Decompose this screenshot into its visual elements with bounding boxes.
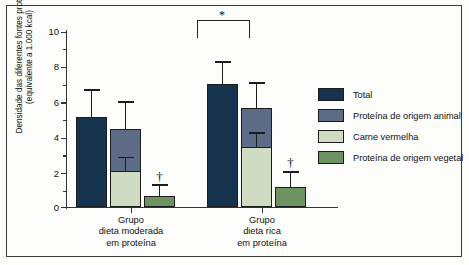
legend-swatch-red-meat [318, 130, 344, 143]
x-label-moderate-line1: Grupo [66, 215, 196, 226]
errorbar-animal-high-line [256, 83, 258, 108]
legend-swatch-vegetal-protein [318, 151, 344, 164]
legend-item-red-meat[interactable]: Carne vermelha [318, 126, 463, 147]
y-tick-label-0: 0 [33, 202, 59, 213]
errorbar-red-meat-high-cap [249, 132, 265, 134]
errorbar-total-moderate-line [91, 90, 93, 117]
y-tick-label-6: 6 [33, 97, 59, 108]
x-label-high-line1: Grupo [197, 215, 327, 226]
y-tick-label-10: 10 [33, 26, 59, 37]
x-label-high-line2: dieta rica [197, 226, 327, 237]
legend-label-vegetal-protein: Proteína de origem vegetal [353, 153, 463, 163]
x-category-label-high: Grupo dieta rica em proteína [197, 215, 327, 249]
significance-star: * [219, 9, 225, 21]
errorbar-vegetal-high-line [290, 172, 292, 187]
errorbar-total-moderate-cap [84, 89, 100, 91]
bar-total-moderate[interactable] [76, 117, 107, 207]
y-axis-label-line1: Densidade das diferentes fontes proteica… [15, 0, 24, 133]
errorbar-vegetal-moderate-line [159, 185, 161, 196]
errorbar-total-high-cap [215, 61, 231, 63]
legend-swatch-animal-protein [318, 109, 344, 122]
x-label-moderate-line2: dieta moderada [66, 226, 196, 237]
x-label-moderate-line3: em proteína [66, 238, 196, 249]
x-tick-moderate [131, 208, 132, 213]
bar-group-high-protein: † [207, 30, 317, 207]
legend-label-animal-protein: Proteína de origem animal [353, 111, 461, 121]
x-axis-line [66, 207, 338, 208]
errorbar-animal-moderate-line [125, 102, 127, 130]
dagger-mark-vegetal-moderate: † [153, 170, 167, 183]
dagger-mark-vegetal-high: † [284, 156, 298, 169]
errorbar-red-meat-moderate-cap [118, 157, 134, 159]
errorbar-animal-moderate-cap [118, 101, 134, 103]
x-label-high-line3: em proteína [197, 238, 327, 249]
legend: Total Proteína de origem animal Carne ve… [318, 84, 463, 168]
errorbar-total-high-line [222, 62, 224, 84]
x-category-label-moderate: Grupo dieta moderada em proteína [66, 215, 196, 249]
plot-area: † † [66, 30, 338, 207]
segment-red-meat-moderate [111, 171, 140, 207]
errorbar-animal-high-cap [249, 82, 265, 84]
errorbar-vegetal-moderate-cap [152, 184, 168, 186]
y-tick-label-4: 4 [33, 132, 59, 143]
errorbar-vegetal-high-cap [283, 171, 299, 173]
y-tick-label-8: 8 [33, 61, 59, 72]
legend-swatch-total [318, 88, 344, 101]
bar-vegetal-protein-high[interactable] [275, 187, 306, 208]
segment-red-meat-high [242, 147, 271, 207]
bar-group-moderate-protein: † [76, 30, 186, 207]
legend-item-animal-protein[interactable]: Proteína de origem animal [318, 105, 463, 126]
bar-vegetal-protein-moderate[interactable] [144, 196, 175, 207]
legend-item-total[interactable]: Total [318, 84, 463, 105]
bar-animal-protein-high[interactable] [241, 108, 272, 208]
errorbar-red-meat-moderate-line [125, 157, 127, 171]
errorbar-red-meat-high-line [256, 133, 258, 148]
figure-container: Densidade das diferentes fontes proteica… [0, 0, 469, 265]
legend-item-vegetal-protein[interactable]: Proteína de origem vegetal [318, 147, 463, 168]
bar-total-high[interactable] [207, 84, 238, 207]
y-tick-label-2: 2 [33, 168, 59, 179]
x-tick-high [262, 208, 263, 213]
legend-label-total: Total [353, 90, 372, 100]
legend-label-red-meat: Carne vermelha [353, 132, 418, 142]
y-tick-0 [61, 207, 67, 208]
